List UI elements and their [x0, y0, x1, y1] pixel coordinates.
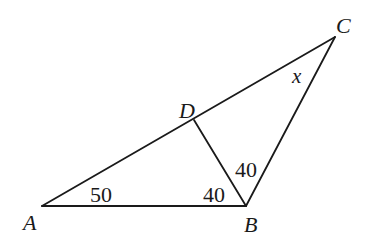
angle-label-dbc: 40	[235, 159, 257, 181]
angle-label-a: 50	[90, 184, 112, 206]
vertex-label-b: B	[244, 214, 257, 236]
diagram-lines	[0, 0, 368, 247]
angle-label-abd: 40	[203, 184, 225, 206]
triangle-diagram: A B C D 50 40 40 x	[0, 0, 368, 247]
vertex-label-d: D	[179, 100, 195, 122]
angle-label-c: x	[292, 66, 301, 87]
vertex-label-a: A	[23, 212, 36, 234]
vertex-label-c: C	[336, 15, 351, 37]
